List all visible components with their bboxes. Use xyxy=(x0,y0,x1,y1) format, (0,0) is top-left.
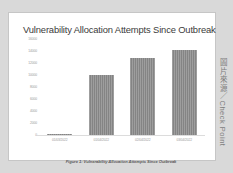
bar-slot xyxy=(122,39,164,135)
y-axis-tick-label: 4000 xyxy=(30,109,37,113)
bar-slot xyxy=(164,39,206,135)
bar-series xyxy=(39,39,205,135)
x-axis-tick-label: 03/04/2022 xyxy=(164,138,206,142)
y-axis-tick-label: 6000 xyxy=(30,97,37,101)
page-background: Vulnerability Allocation Attempts Since … xyxy=(0,0,233,173)
figure-caption: Figure 1: Vulnerability Allocation Attem… xyxy=(17,159,225,164)
x-axis-tick-label: 02/04/2022 xyxy=(122,138,164,142)
bar xyxy=(89,75,114,135)
figure-panel: Vulnerability Allocation Attempts Since … xyxy=(8,12,216,161)
watermark-latin-text: Check Point xyxy=(218,101,227,147)
x-axis-tick-label: 01/04/2022 xyxy=(81,138,123,142)
y-axis-tick-label: 2000 xyxy=(30,121,37,125)
y-axis-tick-label: 12000 xyxy=(28,61,37,65)
x-axis: 01/03/202201/04/202202/04/202203/04/2022 xyxy=(39,138,205,142)
y-axis-tick-label: 8000 xyxy=(30,85,37,89)
source-watermark: 圖片來源／Check Point xyxy=(217,58,229,146)
x-axis-tick-label: 01/03/2022 xyxy=(39,138,81,142)
chart-title: Vulnerability Allocation Attempts Since … xyxy=(23,24,209,35)
plot-area: 1600014000120001000080006000400020000 xyxy=(39,39,205,135)
axis-baseline xyxy=(37,135,205,136)
bar-slot xyxy=(39,39,81,135)
bar xyxy=(172,50,197,135)
bar xyxy=(130,58,155,135)
y-axis-tick-label: 14000 xyxy=(28,49,37,53)
y-axis: 1600014000120001000080006000400020000 xyxy=(16,39,37,135)
watermark-cjk-text: 圖片來源／ xyxy=(218,58,227,101)
y-axis-tick-label: 10000 xyxy=(28,73,37,77)
bar-slot xyxy=(81,39,123,135)
y-axis-tick-label: 16000 xyxy=(28,37,37,41)
